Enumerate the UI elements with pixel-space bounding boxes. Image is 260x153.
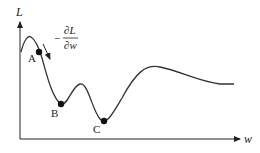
point-a-label: A [28, 52, 36, 64]
point-b [58, 101, 64, 107]
svg-text:−: − [54, 32, 60, 44]
point-c [101, 118, 107, 124]
loss-landscape-diagram: L w − ∂L ∂w A B C [0, 0, 260, 153]
gradient-arrow [43, 44, 50, 59]
svg-text:∂L: ∂L [64, 24, 76, 36]
gradient-label: − ∂L ∂w [54, 24, 78, 51]
point-c-label: C [93, 123, 100, 135]
point-b-label: B [51, 107, 58, 119]
point-a [36, 49, 42, 55]
y-axis-label: L [15, 5, 23, 19]
svg-text:∂w: ∂w [64, 39, 77, 51]
x-axis-label: w [244, 132, 252, 146]
